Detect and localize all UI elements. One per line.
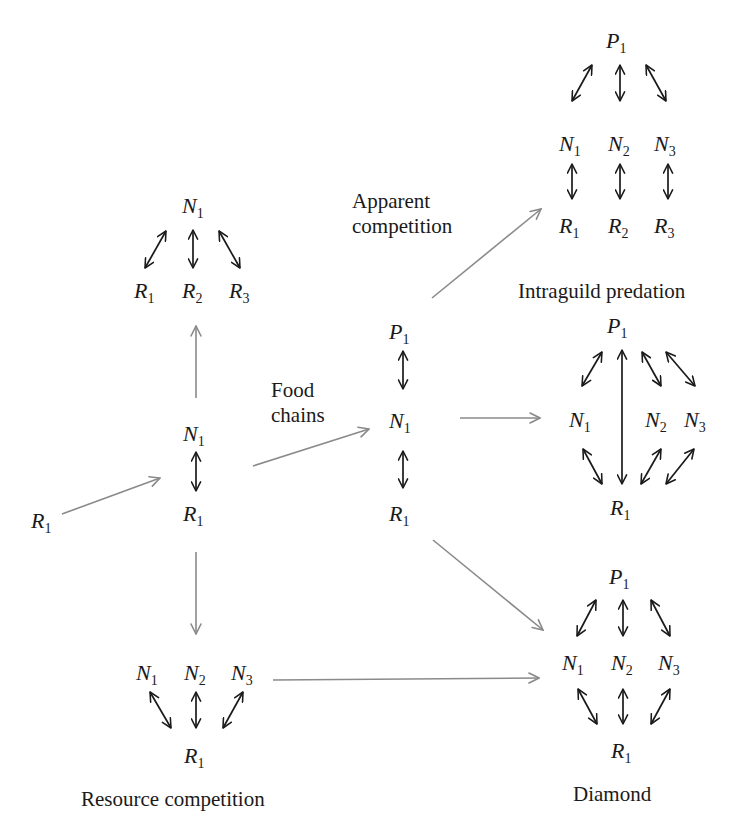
interaction-arrow [651, 600, 670, 636]
species-n1: N1 [182, 421, 205, 449]
species-n3: N3 [653, 131, 676, 159]
interaction-arrow [583, 449, 602, 484]
interaction-arrow [572, 65, 592, 101]
species-r1: R1 [610, 738, 631, 766]
species-r3: R3 [228, 278, 249, 306]
species-n3: N3 [657, 650, 680, 678]
label-apparent-competition-line2: competition [352, 214, 453, 238]
species-r3: R3 [653, 213, 674, 241]
label-food-chains-line1: Food [271, 378, 315, 402]
interaction-arrow [577, 600, 596, 636]
label-food-chains-line2: chains [271, 403, 325, 427]
interaction-arrow [150, 692, 171, 728]
species-p1: P1 [388, 319, 409, 347]
interaction-arrow [641, 449, 661, 484]
arrow-food-chain-to-diamond [433, 540, 543, 630]
module-generalist: N1 R1 R2 R3 [133, 193, 249, 306]
interaction-arrow [646, 65, 666, 101]
species-p1: P1 [605, 28, 626, 56]
module-intraguild-predation: Intraguild predation P1 N1 N2 N3 R1 [518, 279, 706, 523]
interaction-arrow [582, 352, 602, 386]
species-r1: R1 [609, 495, 630, 523]
interaction-arrow [666, 449, 694, 484]
interaction-arrow [642, 352, 661, 386]
interaction-arrow [219, 231, 240, 268]
interaction-arrow [578, 689, 597, 724]
interaction-arrow [223, 692, 243, 728]
species-n1: N1 [561, 650, 584, 678]
species-r1: R1 [388, 501, 409, 529]
species-n1: N1 [558, 131, 581, 159]
species-n1: N1 [568, 407, 591, 435]
species-n2: N2 [183, 660, 206, 688]
module-diamond: P1 N1 N2 N3 R1 Diamond [561, 564, 680, 806]
species-p1: P1 [608, 564, 629, 592]
species-n1: N1 [181, 193, 204, 221]
species-r2: R2 [181, 278, 202, 306]
label-diamond: Diamond [573, 782, 652, 806]
species-p1: P1 [606, 313, 627, 341]
species-r1: R1 [30, 508, 51, 536]
species-n1: N1 [388, 408, 411, 436]
interaction-arrow [666, 352, 695, 386]
species-r1: R1 [183, 743, 204, 771]
species-r1: R1 [133, 278, 154, 306]
interaction-arrow [651, 689, 670, 724]
label-apparent-competition-line1: Apparent [352, 189, 430, 213]
food-web-module-diagram: R1 N1 R1 N1 R1 R2 R3 N1 N2 N3 R1 Resourc… [0, 0, 747, 828]
species-n2: N2 [610, 650, 633, 678]
species-n2: N2 [644, 407, 667, 435]
module-consumer-resource: N1 R1 [182, 421, 205, 529]
module-apparent-competition: Apparent competition P1 N1 N2 N3 R1 R2 R… [352, 28, 676, 241]
arrow-start-to-consumer-resource [62, 478, 160, 514]
label-intraguild-predation: Intraguild predation [518, 279, 686, 303]
species-n3: N3 [683, 407, 706, 435]
species-r1: R1 [182, 501, 203, 529]
module-start: R1 [30, 508, 51, 536]
module-food-chain: Food chains P1 N1 R1 [271, 319, 411, 529]
label-resource-competition: Resource competition [81, 787, 265, 811]
arrow-to-food-chain [253, 429, 369, 466]
module-resource-competition: N1 N2 N3 R1 Resource competition [81, 660, 265, 811]
species-n3: N3 [230, 660, 253, 688]
species-n2: N2 [607, 131, 630, 159]
species-r1: R1 [558, 213, 579, 241]
arrow-resource-competition-to-diamond [273, 678, 539, 680]
species-r2: R2 [607, 213, 628, 241]
species-n1: N1 [135, 660, 158, 688]
interaction-arrow [145, 231, 166, 268]
